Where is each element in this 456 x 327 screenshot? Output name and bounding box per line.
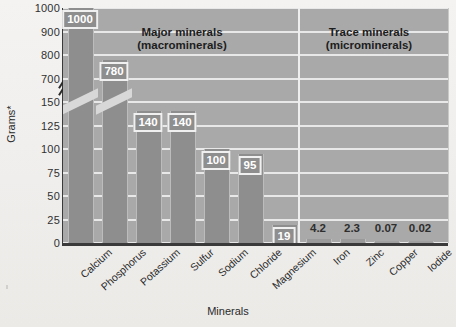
y-tick-label: 900 bbox=[2, 26, 60, 38]
plot-area: Major minerals (macrominerals) Trace min… bbox=[63, 8, 449, 243]
bar bbox=[68, 8, 94, 243]
category-label: Sulfur bbox=[188, 246, 216, 273]
category-label: Iodide bbox=[425, 246, 454, 274]
category-label: Copper bbox=[386, 246, 420, 278]
category-label: Zinc bbox=[363, 246, 386, 268]
bar-value-label: 2.3 bbox=[341, 221, 363, 236]
bar-value-label: 1000 bbox=[62, 10, 98, 29]
gridline bbox=[63, 8, 448, 9]
category-label: Sodium bbox=[216, 246, 250, 279]
bar-value-label: 140 bbox=[167, 113, 196, 132]
y-tick-label: 75 bbox=[2, 167, 60, 179]
y-tick-label: 50 bbox=[2, 190, 60, 202]
x-axis-title: Minerals bbox=[0, 305, 456, 317]
bar-value-label: 780 bbox=[99, 62, 128, 81]
section-title-trace-minerals: Trace minerals (microminerals) bbox=[289, 26, 449, 52]
bar bbox=[102, 60, 128, 243]
y-axis-title: Grams* bbox=[5, 89, 17, 159]
y-tick-label: 800 bbox=[2, 49, 60, 61]
y-tick-label: 25 bbox=[2, 214, 60, 226]
scan-artifact bbox=[6, 285, 8, 289]
bar-value-label: 140 bbox=[133, 113, 162, 132]
bar-value-label: 95 bbox=[239, 156, 262, 175]
y-tick-label: 1000 bbox=[2, 2, 60, 14]
bar-value-label: 4.2 bbox=[307, 221, 329, 236]
section-title-major-minerals: Major minerals (macrominerals) bbox=[102, 26, 262, 52]
gridline bbox=[63, 54, 448, 56]
y-tick-label: 700 bbox=[2, 73, 60, 85]
bar-value-label: 100 bbox=[201, 151, 230, 170]
chart-figure: 10009008007001501251007550250 Major mine… bbox=[0, 0, 456, 327]
bar-value-label: 0.02 bbox=[406, 221, 434, 236]
x-axis-category-labels: CalciumPhosphorusPotassiumSulfurSodiumCh… bbox=[0, 246, 456, 308]
bar-value-label: 0.07 bbox=[372, 221, 400, 236]
category-label: Iron bbox=[331, 246, 352, 267]
